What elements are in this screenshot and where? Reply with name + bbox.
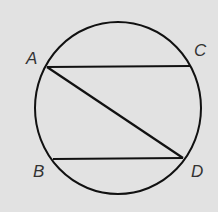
label-b: B (33, 163, 44, 180)
label-c: C (194, 42, 206, 59)
chord-bd (53, 158, 183, 159)
chord-ad (47, 67, 183, 158)
label-d: D (191, 163, 203, 180)
circle (35, 22, 201, 194)
chord-ac (47, 66, 190, 67)
label-a: A (26, 50, 37, 67)
